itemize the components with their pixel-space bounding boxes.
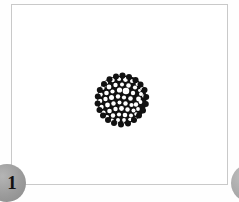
aggregate-specimen: [92, 69, 152, 131]
page-number-badge-1-label: 1: [7, 172, 17, 194]
figure-panel: [11, 4, 228, 185]
page-number-badge-next[interactable]: [231, 164, 239, 202]
page-canvas: 1: [0, 0, 239, 202]
aggregate-specimen-icon: [92, 69, 152, 131]
